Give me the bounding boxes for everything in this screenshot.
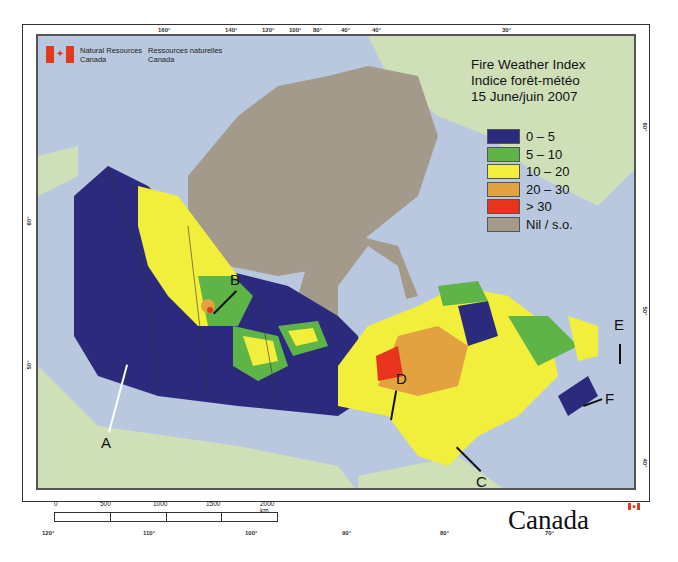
top-lon-label: 40° xyxy=(341,27,350,33)
top-lon-label: 40° xyxy=(372,27,381,33)
newfoundland-fwi xyxy=(568,316,598,361)
left-lat-label: 60° xyxy=(26,216,32,225)
legend-item: 5 – 10 xyxy=(487,146,573,164)
legend-item: 10 – 20 xyxy=(487,163,573,181)
bottom-lon-label: 100° xyxy=(245,530,257,536)
legend-swatch xyxy=(487,147,520,162)
wordmark-flag-icon xyxy=(628,503,640,510)
legend-item: 20 – 30 xyxy=(487,181,573,199)
marker-d: D xyxy=(396,370,407,387)
agency-name-fr: Ressources naturelles Canada xyxy=(148,46,222,64)
marker-e-leader xyxy=(619,344,621,364)
right-lat-label: 50° xyxy=(642,306,648,315)
legend-item: Nil / s.o. xyxy=(487,216,573,234)
top-lon-label: 100° xyxy=(289,27,301,33)
legend-item: > 30 xyxy=(487,198,573,216)
marker-c: C xyxy=(476,473,487,490)
right-lat-label: 60° xyxy=(642,122,648,131)
top-lon-label: 30° xyxy=(502,27,511,33)
nova-scotia-low-fwi xyxy=(558,376,598,416)
map-title: Fire Weather Index Indice forêt-météo 15… xyxy=(471,57,586,105)
legend-swatch xyxy=(487,164,520,179)
bottom-lon-label: 120° xyxy=(42,530,54,536)
agency-name-en: Natural Resources Canada xyxy=(80,46,142,64)
top-lon-label: 120° xyxy=(262,27,274,33)
top-lon-label: 80° xyxy=(313,27,322,33)
canada-flag-icon: ✦ xyxy=(46,46,74,63)
nrcan-logo: ✦ Natural Resources Canada Ressources na… xyxy=(46,46,222,64)
bottom-lon-label: 110° xyxy=(143,530,155,536)
marker-e: E xyxy=(614,316,624,333)
alaska-region xyxy=(38,146,78,196)
canada-wordmark: Canada xyxy=(508,505,589,536)
marker-f: F xyxy=(605,390,614,407)
map-legend: 0 – 5 5 – 10 10 – 20 20 – 30 > 30 Nil / … xyxy=(487,128,573,233)
legend-swatch xyxy=(487,199,520,214)
legend-swatch xyxy=(487,217,520,232)
marker-a: A xyxy=(101,434,111,451)
marker-b: B xyxy=(230,271,240,288)
top-lon-label: 160° xyxy=(158,27,170,33)
bottom-lon-label: 80° xyxy=(440,530,449,536)
legend-swatch xyxy=(487,129,520,144)
legend-item: 0 – 5 xyxy=(487,128,573,146)
right-lat-label: 40° xyxy=(642,458,648,467)
bottom-lon-label: 90° xyxy=(342,530,351,536)
left-lat-label: 50° xyxy=(26,360,32,369)
top-lon-label: 140° xyxy=(225,27,237,33)
legend-swatch xyxy=(487,182,520,197)
